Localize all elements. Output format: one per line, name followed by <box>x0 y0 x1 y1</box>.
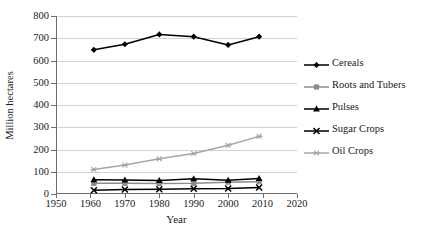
legend-label: Roots and Tubers <box>330 80 406 91</box>
legend-marker-diamond-icon <box>303 57 330 69</box>
chart-legend: CerealsRoots and TubersPulsesSugar Crops… <box>303 57 406 157</box>
legend-item-cereals[interactable]: Cereals <box>303 57 406 69</box>
legend-marker-x-icon <box>303 123 330 135</box>
data-point-diamond <box>313 62 319 68</box>
data-point-diamond <box>122 41 128 47</box>
x-tick-label: 2020 <box>287 199 308 210</box>
legend-item-oil-crops[interactable]: Oil Crops <box>303 145 406 157</box>
y-tick-label: 100 <box>33 167 49 178</box>
y-tick-label: 600 <box>33 55 49 66</box>
data-point-asterisk <box>190 151 197 156</box>
x-axis-title-text: Year <box>166 213 186 225</box>
x-tick-label: 2010 <box>252 199 273 210</box>
x-tick-label: 1980 <box>149 199 170 210</box>
data-point-diamond <box>225 42 231 48</box>
y-axis-title: Million hectares <box>2 16 16 194</box>
data-point-asterisk <box>313 151 320 156</box>
data-point-asterisk <box>225 143 232 148</box>
plot-area: 0100200300400500600700800 19501960197019… <box>56 16 297 194</box>
x-tick-label: 1960 <box>80 199 101 210</box>
legend-marker-triangle-icon <box>303 101 330 113</box>
y-tick-label: 800 <box>33 11 49 22</box>
x-axis-title: Year <box>56 213 297 225</box>
legend-label: Cereals <box>330 58 364 69</box>
legend-item-sugar-crops[interactable]: Sugar Crops <box>303 123 406 135</box>
x-tick-label: 1950 <box>46 199 67 210</box>
legend-marker-square-icon <box>303 79 330 91</box>
legend-item-pulses[interactable]: Pulses <box>303 101 406 113</box>
series-sugar-crops <box>91 185 262 194</box>
data-point-diamond <box>191 34 197 40</box>
y-tick-label: 500 <box>33 78 49 89</box>
y-tick-label: 300 <box>33 122 49 133</box>
data-point-asterisk <box>90 167 97 172</box>
y-tick-label: 200 <box>33 144 49 155</box>
data-point-diamond <box>91 47 97 53</box>
data-point-square <box>314 84 319 89</box>
legend-label: Oil Crops <box>330 146 373 157</box>
data-point-square <box>191 181 196 186</box>
series-cereals <box>91 31 262 53</box>
x-tick-label: 1990 <box>183 199 204 210</box>
y-axis-title-text: Million hectares <box>4 71 15 140</box>
x-tick-label: 2000 <box>218 199 239 210</box>
series-plot <box>56 16 297 194</box>
data-point-diamond <box>156 31 162 37</box>
legend-marker-asterisk-icon <box>303 145 330 157</box>
y-tick-label: 700 <box>33 33 49 44</box>
chart-container: Million hectares 01002003004005006007008… <box>0 0 423 239</box>
legend-label: Pulses <box>330 102 359 113</box>
data-point-asterisk <box>256 134 263 139</box>
x-tick-label: 1970 <box>114 199 135 210</box>
series-oil-crops <box>90 134 262 172</box>
data-point-asterisk <box>156 156 163 161</box>
legend-label: Sugar Crops <box>330 124 384 135</box>
data-point-asterisk <box>121 163 128 168</box>
y-tick-label: 400 <box>33 100 49 111</box>
data-point-diamond <box>256 34 262 40</box>
legend-item-roots-and-tubers[interactable]: Roots and Tubers <box>303 79 406 91</box>
